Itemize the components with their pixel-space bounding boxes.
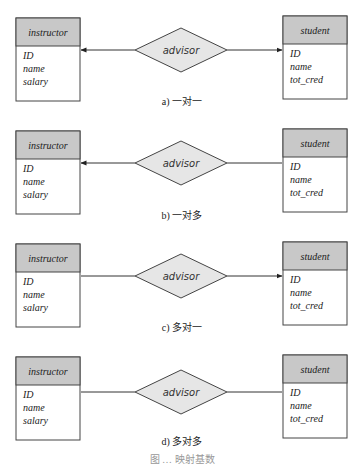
entity-name: student [301, 251, 330, 262]
entity-attribute: ID [289, 387, 301, 398]
relationship-name: advisor [163, 387, 201, 398]
left-entity-instructor: instructorIDnamesalary [16, 131, 80, 214]
entity-attribute: ID [22, 163, 34, 174]
right-entity-student: studentIDnametot_cred [283, 129, 347, 212]
diagram-caption: d) 多对多 [162, 435, 203, 448]
entity-attribute: ID [22, 276, 34, 287]
entity-attribute: tot_cred [290, 413, 324, 424]
entity-attribute: tot_cred [290, 74, 324, 85]
relationship-name: advisor [163, 158, 201, 169]
entity-attribute: salary [23, 302, 49, 313]
right-entity-student: studentIDnametot_cred [283, 355, 347, 438]
diagram-caption: b) 一对多 [162, 209, 203, 222]
entity-attribute: ID [289, 274, 301, 285]
right-entity-student: studentIDnametot_cred [283, 242, 347, 325]
entity-attribute: name [290, 400, 312, 411]
entity-attribute: name [23, 63, 45, 74]
entity-attribute: name [290, 174, 312, 185]
figure-caption: 图 … 映射基数 [150, 453, 215, 465]
entity-attribute: name [290, 61, 312, 72]
diagram-caption: c) 多对一 [162, 321, 202, 334]
entity-attribute: ID [289, 48, 301, 59]
diagram-a: instructorIDnamesalarystudentIDnametot_c… [16, 16, 347, 108]
entity-attribute: ID [22, 50, 34, 61]
left-entity-instructor: instructorIDnamesalary [16, 357, 80, 440]
entity-attribute: salary [23, 415, 49, 426]
entity-attribute: tot_cred [290, 300, 324, 311]
entity-name: instructor [28, 27, 68, 38]
entity-attribute: name [290, 287, 312, 298]
entity-attribute: name [23, 289, 45, 300]
entity-name: instructor [28, 366, 68, 377]
entity-attribute: name [23, 176, 45, 187]
diagram-c: instructorIDnamesalarystudentIDnametot_c… [16, 242, 347, 334]
left-entity-instructor: instructorIDnamesalary [16, 18, 80, 101]
relationship-name: advisor [163, 45, 201, 56]
entity-name: instructor [28, 140, 68, 151]
diagram-b: instructorIDnamesalarystudentIDnametot_c… [16, 129, 347, 222]
entity-name: student [301, 364, 330, 375]
entity-attribute: name [23, 402, 45, 413]
entity-attribute: ID [22, 389, 34, 400]
entity-attribute: tot_cred [290, 187, 324, 198]
er-cardinality-figure: instructorIDnamesalarystudentIDnametot_c… [0, 0, 364, 465]
right-entity-student: studentIDnametot_cred [283, 16, 347, 99]
entity-attribute: ID [289, 161, 301, 172]
left-entity-instructor: instructorIDnamesalary [16, 244, 80, 327]
entity-name: student [301, 25, 330, 36]
diagram-caption: a) 一对一 [162, 95, 202, 108]
entity-name: student [301, 138, 330, 149]
entity-attribute: salary [23, 76, 49, 87]
relationship-name: advisor [163, 271, 201, 282]
entity-name: instructor [28, 253, 68, 264]
entity-attribute: salary [23, 189, 49, 200]
diagram-d: instructorIDnamesalarystudentIDnametot_c… [16, 355, 347, 448]
